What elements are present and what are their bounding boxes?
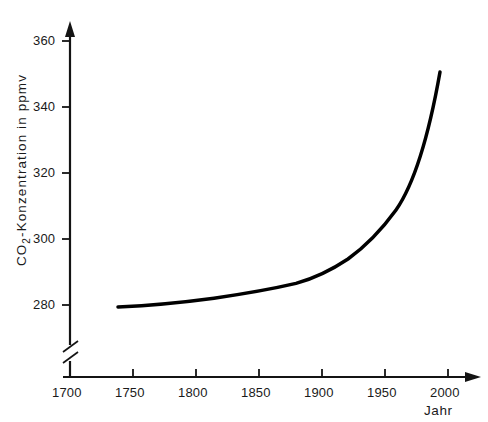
x-axis-arrowhead	[465, 372, 481, 382]
y-axis-arrowhead	[65, 21, 75, 37]
y-tick-label-300: 300	[33, 231, 55, 246]
y-tick-label-340: 340	[33, 99, 55, 114]
y-tick-label-360: 360	[33, 33, 55, 48]
y-axis-group	[62, 21, 78, 378]
x-axis-group	[63, 369, 481, 382]
x-axis-title: Jahr	[424, 403, 453, 418]
x-tick-label-1800: 1800	[178, 385, 208, 400]
x-tick-label-1750: 1750	[115, 385, 145, 400]
y-axis-title-group: CO2-Konzentration in ppmv	[14, 74, 32, 266]
x-axis-ticks	[70, 369, 448, 377]
y-axis-title-pre: CO	[14, 244, 29, 266]
y-tick-label-280: 280	[33, 297, 55, 312]
svg-text:CO2-Konzentration in ppmv: CO2-Konzentration in ppmv	[14, 74, 32, 266]
chart-canvas: CO2-Konzentration in ppmv	[0, 0, 488, 422]
x-tick-label-1950: 1950	[367, 385, 397, 400]
x-tick-label-1700: 1700	[52, 385, 82, 400]
x-tick-label-1900: 1900	[304, 385, 334, 400]
y-tick-label-320: 320	[33, 165, 55, 180]
co2-curve	[118, 72, 440, 307]
y-axis-title-post: -Konzentration in ppmv	[14, 74, 29, 237]
co2-concentration-chart: CO2-Konzentration in ppmv 360 340 320 30…	[0, 0, 488, 422]
x-tick-label-2000: 2000	[430, 385, 460, 400]
x-tick-label-1850: 1850	[241, 385, 271, 400]
y-axis-ticks	[62, 41, 70, 305]
y-axis-title-subscript: 2	[21, 237, 32, 244]
